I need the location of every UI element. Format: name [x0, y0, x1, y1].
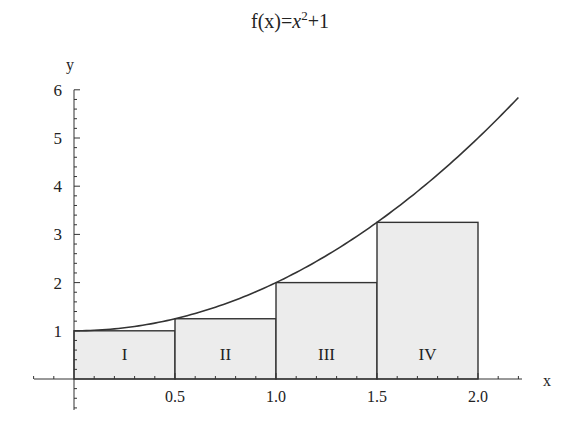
- riemann-rectangles: [74, 222, 478, 379]
- y-tick-label: 5: [54, 129, 63, 148]
- riemann-sum-chart: IIIIIIIV 0.51.01.52.0 123456 f(x)=x2+1 x…: [0, 0, 579, 425]
- x-tick-label: 1.5: [367, 388, 387, 405]
- y-tick-label: 1: [54, 322, 63, 341]
- rectangle-label: II: [220, 345, 232, 364]
- rectangle-label: III: [318, 345, 335, 364]
- y-tick-label: 6: [54, 81, 63, 100]
- x-tick-label: 0.5: [165, 388, 185, 405]
- y-tick-label: 2: [54, 274, 63, 293]
- rectangle-label: I: [122, 345, 128, 364]
- x-tick-label: 1.0: [266, 388, 286, 405]
- rectangle-label: IV: [419, 345, 438, 364]
- rectangle-III: [276, 283, 377, 379]
- x-tick-label: 2.0: [468, 388, 488, 405]
- x-axis-label: x: [543, 372, 551, 389]
- chart-title: f(x)=x2+1: [251, 8, 329, 33]
- y-tick-label: 4: [54, 177, 63, 196]
- y-axis-label: y: [66, 56, 74, 74]
- y-tick-label: 3: [54, 225, 63, 244]
